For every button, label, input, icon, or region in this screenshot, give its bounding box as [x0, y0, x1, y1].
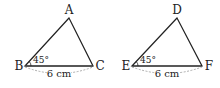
angle-b-label: 45°: [33, 55, 49, 65]
vertex-b-label: B: [15, 59, 24, 73]
vertex-a-label: A: [64, 3, 74, 17]
triangles-diagram: 45° 6 cm A B C 45° 6 cm D E F: [0, 0, 220, 88]
vertex-d-label: D: [172, 3, 182, 17]
triangle-abc: 45° 6 cm A B C: [15, 3, 105, 79]
length-bc-label: 6 cm: [47, 68, 72, 79]
vertex-e-label: E: [122, 59, 131, 73]
vertex-c-label: C: [95, 59, 104, 73]
angle-e-arc: [136, 62, 138, 66]
length-ef-label: 6 cm: [155, 68, 180, 79]
vertex-f-label: F: [205, 59, 213, 73]
triangle-def: 45° 6 cm D E F: [122, 3, 214, 79]
angle-e-label: 45°: [140, 55, 156, 65]
